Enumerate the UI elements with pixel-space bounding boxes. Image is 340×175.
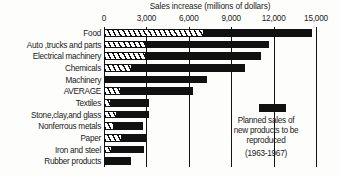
category-label: Stone,clay,and glass xyxy=(1,110,101,119)
bar-segment-hatched xyxy=(104,87,121,94)
x-tick-label: 0 xyxy=(102,14,106,23)
legend-line-1: Planned sales of xyxy=(213,116,319,126)
bar-chart: Sales increase (millions of dollars) 03,… xyxy=(0,0,340,175)
bar-row xyxy=(104,52,316,59)
bar-segment-hatched xyxy=(104,41,146,48)
bar-segment-hatched xyxy=(104,111,117,118)
category-label: Iron and steel xyxy=(1,145,101,154)
category-label: Auto ,trucks and parts xyxy=(1,40,101,49)
bar-segment-hatched xyxy=(104,146,112,153)
category-axis-labels: FoodAuto ,trucks and partsElectrical mac… xyxy=(0,27,101,167)
legend-years: (1963-1967) xyxy=(213,149,319,159)
category-label: Paper xyxy=(1,133,101,142)
bar-segment-hatched xyxy=(104,52,146,59)
category-label: AVERAGE xyxy=(1,87,101,96)
bar-segment-hatched xyxy=(104,29,204,36)
legend-line-2: new products to be xyxy=(213,126,319,136)
bar-segment-hatched xyxy=(104,64,132,71)
legend-line-3: reproduced xyxy=(213,136,319,146)
category-label: Rubber products xyxy=(1,157,101,166)
category-label: Nonferrous metals xyxy=(1,122,101,131)
bar-row xyxy=(104,41,316,48)
bar-row xyxy=(104,64,316,71)
bar-segment-hatched xyxy=(104,122,114,129)
bar-row xyxy=(104,76,316,83)
bar-row xyxy=(104,87,316,94)
bar-segment-solid xyxy=(104,76,207,83)
category-label: Food xyxy=(1,28,101,37)
chart-title: Sales increase (millions of dollars) xyxy=(104,2,316,11)
bar-segment-solid xyxy=(104,157,131,164)
category-label: Electrical machinery xyxy=(1,52,101,61)
x-tick-label: 15,000 xyxy=(304,14,328,23)
category-label: Machinery xyxy=(1,75,101,84)
x-tick-label: 6,000 xyxy=(179,14,199,23)
x-tick-label: 3,000 xyxy=(137,14,157,23)
bar-row xyxy=(104,29,316,36)
bar-segment-hatched xyxy=(104,99,111,106)
legend-swatch-solid xyxy=(259,104,286,112)
category-label: Textiles xyxy=(1,98,101,107)
x-tick-label: 12,000 xyxy=(262,14,286,23)
legend-text: Planned sales of new products to be repr… xyxy=(213,116,319,159)
x-tick-label: 9,000 xyxy=(221,14,241,23)
bar-segment-hatched xyxy=(104,134,122,141)
category-label: Chemicals xyxy=(1,63,101,72)
